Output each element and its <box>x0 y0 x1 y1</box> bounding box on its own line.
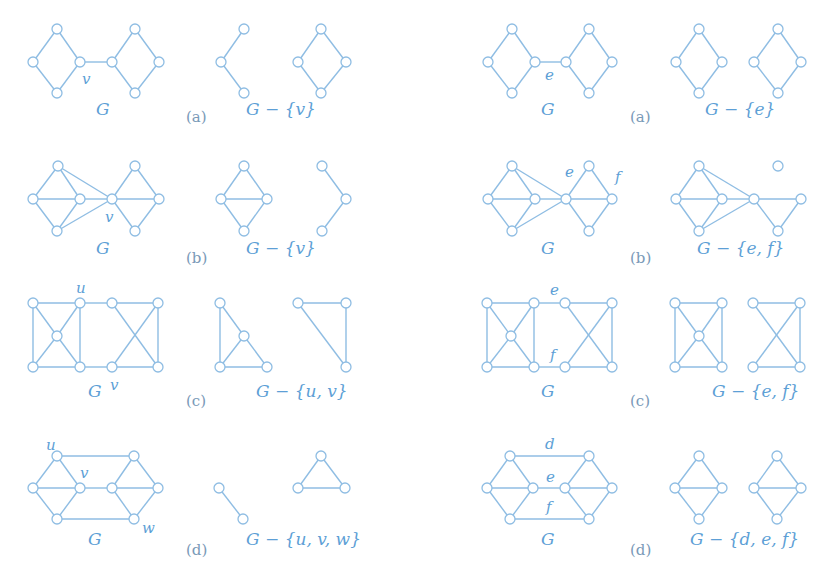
vertex <box>52 514 62 524</box>
vertex <box>507 161 517 171</box>
edge <box>220 303 244 336</box>
edge <box>57 488 80 519</box>
vertex <box>53 161 63 171</box>
vertex-label: w <box>142 519 155 537</box>
vertex <box>795 298 805 308</box>
edge <box>754 29 778 62</box>
edge <box>57 303 80 336</box>
edge <box>298 303 346 367</box>
vertex <box>694 88 704 98</box>
vertex <box>607 194 617 204</box>
edge <box>321 29 346 62</box>
vertex <box>293 298 303 308</box>
edge <box>57 199 112 231</box>
edge <box>112 166 135 199</box>
vertex <box>75 57 85 67</box>
edge <box>512 199 535 231</box>
vertex <box>717 194 727 204</box>
graph-label: G − {u, v} <box>256 381 348 401</box>
graph-label: G <box>88 529 102 549</box>
vertex <box>52 24 62 34</box>
panel-caption: (a) <box>630 108 651 126</box>
edge <box>777 488 801 519</box>
vertex-label: u <box>46 436 56 454</box>
edge <box>778 29 801 62</box>
vertex <box>717 362 727 372</box>
graph-g: vG <box>28 161 164 258</box>
edge <box>221 29 244 62</box>
vertex <box>75 483 85 493</box>
edge <box>221 199 244 231</box>
vertex-label: e <box>565 163 574 181</box>
edge <box>135 199 159 231</box>
vertex <box>28 362 38 372</box>
edge <box>135 29 159 62</box>
graph-g-minus: G − {v} <box>216 24 351 119</box>
edge <box>134 456 158 488</box>
vertex <box>107 57 117 67</box>
vertex <box>607 483 617 493</box>
panel-caption: (b) <box>630 249 651 267</box>
vertex <box>670 362 680 372</box>
vertex <box>262 194 272 204</box>
graph-label: G − {e, f} <box>697 238 784 258</box>
vertex-label: d <box>545 435 555 453</box>
graph-g-minus: G − {d, e, f} <box>670 451 806 549</box>
edge <box>512 166 535 199</box>
vertex <box>671 57 681 67</box>
vertex <box>154 57 164 67</box>
edge <box>57 456 80 488</box>
panel-edge-b: efGG − {e, f}(b) <box>483 161 806 267</box>
edge <box>699 336 722 367</box>
graph-g-minus: G − {u, v, w} <box>214 451 361 549</box>
vertex <box>215 362 225 372</box>
edge <box>699 62 722 93</box>
edge <box>676 199 699 231</box>
edge <box>754 62 778 93</box>
vertex <box>694 331 704 341</box>
vertex <box>238 514 248 524</box>
vertex <box>772 451 782 461</box>
vertex <box>52 331 62 341</box>
graph-g: efG <box>483 161 623 258</box>
edge <box>57 62 80 93</box>
edge <box>487 456 510 488</box>
edge <box>699 166 754 199</box>
vertex <box>317 226 327 236</box>
vertex <box>529 298 539 308</box>
vertex-label: e <box>545 66 554 84</box>
edge <box>221 62 244 93</box>
edge <box>777 456 801 488</box>
vertex <box>561 194 571 204</box>
edge <box>589 62 612 93</box>
vertex <box>341 57 351 67</box>
edge <box>321 62 346 93</box>
edge <box>566 199 589 231</box>
graph-g-minus: G − {e, f} <box>671 161 806 258</box>
vertex <box>717 298 727 308</box>
edge <box>58 166 112 199</box>
vertex <box>293 483 303 493</box>
edge <box>675 488 699 519</box>
vertex <box>607 57 617 67</box>
vertex <box>130 226 140 236</box>
edge <box>487 303 511 336</box>
vertex-label: e <box>546 468 555 486</box>
vertex <box>75 194 85 204</box>
edge <box>487 336 511 367</box>
vertex <box>341 362 351 372</box>
edge <box>675 456 699 488</box>
edge <box>589 488 612 519</box>
vertex <box>239 24 249 34</box>
vertex <box>506 331 516 341</box>
vertex <box>316 88 326 98</box>
vertex <box>340 483 350 493</box>
edge <box>512 29 535 62</box>
vertex <box>214 483 224 493</box>
vertex <box>239 331 249 341</box>
graph-label: G <box>541 381 555 401</box>
graph-label: G <box>96 238 110 258</box>
edge <box>244 166 267 199</box>
vertex <box>153 298 163 308</box>
edge <box>57 336 80 367</box>
